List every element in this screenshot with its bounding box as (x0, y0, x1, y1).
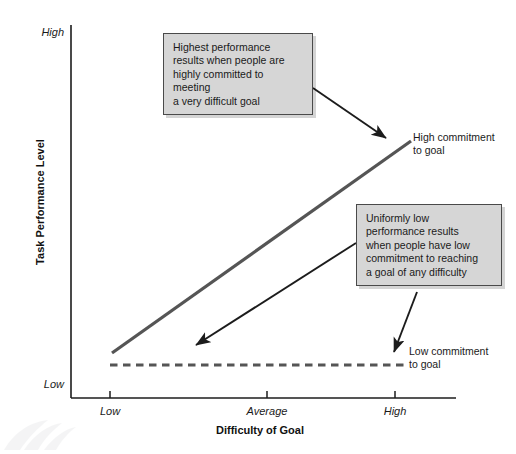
annotation-arrow-high-commitment (313, 88, 386, 138)
annotation-arrow-low-commitment-right (394, 292, 417, 352)
y-tick-label-low: Low (24, 378, 64, 390)
corner-watermark (2, 414, 86, 452)
x-axis-title: Difficulty of Goal (150, 424, 370, 436)
y-tick-label-high: High (24, 26, 64, 38)
annotation-arrow-low-commitment-left (196, 243, 356, 345)
series-label-high-commitment: High commitment to goal (413, 131, 513, 157)
goal-difficulty-performance-chart: Highest performance results when people … (0, 0, 516, 454)
annotation-box-low-commitment: Uniformly low performance results when p… (356, 204, 502, 286)
annotation-box-high-commitment: Highest performance results when people … (163, 33, 313, 115)
x-tick-label-low: Low (80, 405, 140, 417)
series-label-low-commitment: Low commitment to goal (409, 345, 509, 371)
x-tick-label-average: Average (232, 405, 302, 417)
y-axis-title: Task Performance Level (34, 92, 46, 312)
x-tick-label-high: High (365, 405, 425, 417)
